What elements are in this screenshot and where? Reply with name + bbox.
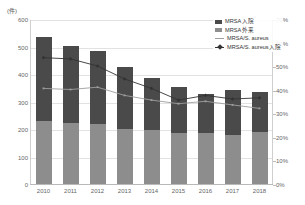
legend-label: MRSA/S. aureus (227, 35, 269, 42)
line-marker (42, 56, 46, 60)
line-marker (69, 57, 73, 61)
line-marker (232, 104, 234, 106)
legend-mrsa-ratio-inpatient[interactable]: MRSA/S. aureus入院 (215, 44, 281, 51)
line-path (44, 58, 260, 100)
x-axis-tick-label: 2011 (56, 188, 86, 194)
legend-mrsa-outpatient[interactable]: MRSA 外来 (215, 27, 281, 34)
chart-legend: MRSA 入院MRSA 外来MRSA/S. aureusMRSA/S. aure… (213, 17, 283, 52)
line-marker (96, 64, 100, 68)
y-axis-left-tick-label: 400 (6, 72, 28, 78)
legend-label: MRSA/S. aureus入院 (227, 44, 281, 51)
y-axis-left-tick-label: 200 (6, 127, 28, 133)
line-marker (150, 87, 154, 91)
y-axis-right-tick-mark (273, 138, 276, 139)
legend-mrsa-ratio[interactable]: MRSA/S. aureus (215, 35, 281, 42)
y-axis-unit-label: (件) (7, 6, 17, 15)
x-axis-tick-label: 2014 (137, 188, 167, 194)
y-axis-left-tick-label: 600 (6, 17, 28, 23)
legend-swatch-box-icon (215, 20, 222, 24)
y-axis-right-tick-label: 40% (276, 88, 302, 94)
legend-label: MRSA 外来 (225, 27, 254, 34)
line-marker (258, 96, 262, 100)
y-axis-right-tick-label: 50% (276, 64, 302, 70)
x-axis-tick-label: 2010 (29, 188, 59, 194)
line-marker (97, 86, 99, 88)
y-axis-right-tick-label: 0% (276, 182, 302, 188)
line-marker (231, 97, 235, 101)
line-marker (124, 95, 126, 97)
y-axis-right-tick-mark (273, 114, 276, 115)
line-marker (151, 99, 153, 101)
line-marker (43, 88, 45, 90)
x-axis-line (30, 184, 273, 185)
line-marker (205, 100, 207, 102)
line-marker (259, 108, 261, 110)
line-marker (177, 98, 181, 102)
y-axis-left-tick-label: 500 (6, 45, 28, 51)
y-axis-left-tick-label: 100 (6, 155, 28, 161)
y-axis-right-tick-mark (273, 185, 276, 186)
x-axis-tick-label: 2017 (218, 188, 248, 194)
chart-container: (件) 0100200300400500600 0%10%20%30%40%50… (0, 0, 305, 205)
line-marker (123, 77, 127, 81)
y-axis-left-tick-label: 0 (6, 182, 28, 188)
x-axis-tick-label: 2012 (83, 188, 113, 194)
x-axis-tick-label: 2015 (164, 188, 194, 194)
line-marker (70, 89, 72, 91)
line-marker (178, 103, 180, 105)
x-axis-tick-label: 2018 (245, 188, 275, 194)
x-axis-tick-label: 2016 (191, 188, 221, 194)
y-axis-left-tick-label: 300 (6, 100, 28, 106)
y-axis-right-tick-label: 30% (276, 111, 302, 117)
y-axis-right-tick-label: 10% (276, 158, 302, 164)
y-axis-right-tick-mark (273, 91, 276, 92)
legend-label: MRSA 入院 (225, 18, 254, 25)
y-axis-right-tick-mark (273, 67, 276, 68)
legend-swatch-box-icon (215, 28, 222, 32)
y-axis-right-tick-label: 20% (276, 135, 302, 141)
line-marker (204, 94, 208, 98)
legend-mrsa-inpatient[interactable]: MRSA 入院 (215, 18, 281, 25)
x-axis-tick-label: 2013 (110, 188, 140, 194)
y-axis-right-tick-mark (273, 161, 276, 162)
line-path (44, 87, 260, 108)
